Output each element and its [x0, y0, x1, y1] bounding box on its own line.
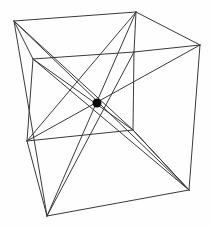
center-point-dot	[93, 99, 102, 108]
center-point-group	[93, 99, 102, 108]
wireframe-cube-diagram	[0, 0, 212, 227]
figure-container: Wireframe cube with space diagonals Line…	[0, 0, 212, 227]
diagram-background	[0, 0, 212, 227]
